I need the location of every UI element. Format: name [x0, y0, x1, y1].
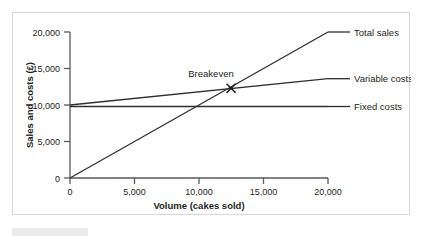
- x-tick-label-0: 0: [67, 187, 72, 197]
- series-label-fixed-costs: Fixed costs: [354, 101, 402, 112]
- footer-placeholder-bar: [12, 228, 88, 236]
- y-tick-label-5000: 5,000: [37, 137, 60, 147]
- chart-figure: 0 5,000 10,000 15,000 20,000 0 5,000 10,…: [12, 12, 410, 215]
- x-tick-label-10000: 10,000: [185, 187, 213, 197]
- x-tick-label-15000: 15,000: [250, 187, 278, 197]
- series-line-total-sales: [70, 32, 328, 178]
- x-tick-label-20000: 20,000: [314, 187, 342, 197]
- y-tick-label-0: 0: [55, 174, 60, 184]
- breakeven-chart: 0 5,000 10,000 15,000 20,000 0 5,000 10,…: [13, 13, 411, 216]
- y-tick-label-15000: 15,000: [32, 64, 60, 74]
- x-tick-label-5000: 5,000: [123, 187, 146, 197]
- x-axis-title: Volume (cakes sold): [153, 200, 244, 211]
- series-label-variable-costs: Variable costs: [354, 73, 411, 84]
- breakeven-label: Breakeven: [188, 68, 233, 79]
- y-tick-label-10000: 10,000: [32, 101, 60, 111]
- series-line-variable-costs: [70, 79, 328, 105]
- y-tick-label-20000: 20,000: [32, 28, 60, 38]
- series-label-total-sales: Total sales: [354, 27, 399, 38]
- y-axis-title: Sales and costs (£): [24, 62, 35, 148]
